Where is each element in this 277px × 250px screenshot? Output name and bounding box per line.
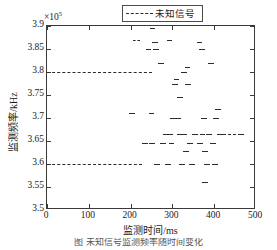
data-segment <box>228 134 236 135</box>
x-tick-mark <box>172 204 173 208</box>
data-segment <box>179 164 185 165</box>
data-segment <box>213 118 219 119</box>
y-tick-mark <box>47 95 51 96</box>
data-segment <box>153 49 159 50</box>
y-axis-exponent-label: ×105 <box>44 11 62 23</box>
x-tick-mark-top <box>89 26 90 30</box>
data-segment <box>238 134 245 135</box>
y-tick-label: 3.65 <box>27 135 44 145</box>
y-tick-label: 3.6 <box>32 158 44 168</box>
data-segment <box>177 97 183 98</box>
y-tick-label: 3.5 <box>32 204 44 214</box>
y-tick-mark-right <box>250 72 254 73</box>
y-tick-mark-right <box>250 26 254 27</box>
legend[interactable]: 未知信号 <box>122 5 203 22</box>
data-segment <box>136 208 142 209</box>
data-segment <box>152 42 158 43</box>
x-tick-mark <box>214 204 215 208</box>
data-segment <box>167 134 173 135</box>
y-tick-mark <box>47 118 51 119</box>
data-segment <box>154 164 160 165</box>
y-tick-mark-right <box>250 187 254 188</box>
data-segment <box>208 208 214 209</box>
data-segment <box>206 134 212 135</box>
data-segment <box>202 151 208 152</box>
data-segment <box>204 164 210 165</box>
exponent-power: 5 <box>59 10 62 17</box>
data-segment <box>165 164 171 165</box>
data-segment <box>182 134 188 135</box>
y-tick-label: 3.9 <box>32 20 44 30</box>
data-segment <box>185 84 191 85</box>
data-segment <box>149 143 155 144</box>
x-tick-mark <box>131 204 132 208</box>
data-segment <box>47 164 142 165</box>
data-segment <box>169 143 175 144</box>
data-segment <box>142 143 148 144</box>
data-segment <box>146 49 152 50</box>
data-segment <box>160 143 166 144</box>
y-tick-mark <box>47 187 51 188</box>
data-segment <box>167 40 173 41</box>
legend-line-swatch <box>126 13 153 14</box>
data-segment <box>196 208 202 209</box>
figure-container: ×105 3.53.553.63.653.73.753.83.853.9 010… <box>0 0 277 250</box>
data-segment <box>199 49 205 50</box>
data-segment <box>147 208 153 209</box>
y-tick-mark-right <box>250 95 254 96</box>
data-segment <box>240 208 246 209</box>
y-tick-label: 3.55 <box>27 181 44 191</box>
y-tick-mark <box>47 49 51 50</box>
data-segment <box>150 28 155 29</box>
data-segment <box>212 164 218 165</box>
data-segment <box>172 84 178 85</box>
x-tick-mark-top <box>214 26 215 30</box>
data-segment <box>185 67 191 68</box>
x-tick-label: 100 <box>81 211 95 221</box>
data-segment <box>192 134 198 135</box>
y-tick-mark <box>47 141 51 142</box>
y-tick-label: 3.75 <box>27 89 44 99</box>
y-tick-label: 3.85 <box>27 43 44 53</box>
exponent-prefix: ×10 <box>44 12 59 22</box>
x-tick-mark-top <box>47 26 48 30</box>
data-segment <box>210 143 216 144</box>
data-segment <box>174 79 180 80</box>
data-segment <box>149 113 155 114</box>
data-segment <box>133 40 140 41</box>
y-tick-mark-right <box>250 49 254 50</box>
data-segment <box>187 143 193 144</box>
data-segment <box>197 143 203 144</box>
x-tick-label: 300 <box>164 211 178 221</box>
data-segment <box>47 72 152 73</box>
data-segment <box>215 109 221 110</box>
y-tick-mark-right <box>250 118 254 119</box>
y-tick-mark-right <box>250 164 254 165</box>
x-axis-title: 监测时间/ms <box>46 226 255 236</box>
data-segment <box>129 113 135 114</box>
legend-label-unknown-signal: 未知信号 <box>155 9 195 19</box>
data-segment <box>225 208 231 209</box>
y-tick-label: 3.8 <box>32 66 44 76</box>
data-segment <box>200 134 206 135</box>
data-segment <box>197 42 203 43</box>
data-segment <box>181 72 187 73</box>
data-segment <box>201 118 207 119</box>
figure-caption: 图 未知信号监测频率随时间变化 <box>0 238 277 247</box>
x-tick-mark <box>47 204 48 208</box>
x-tick-mark-top <box>131 26 132 30</box>
data-segment <box>158 63 164 64</box>
data-segment <box>202 182 208 183</box>
data-segment <box>175 118 181 119</box>
y-tick-label: 3.7 <box>32 112 44 122</box>
x-tick-label: 500 <box>248 211 262 221</box>
x-tick-label: 200 <box>122 211 136 221</box>
data-segment <box>220 134 226 135</box>
x-tick-mark <box>89 204 90 208</box>
data-segment <box>183 151 189 152</box>
data-segment <box>208 63 214 64</box>
y-tick-mark-right <box>250 141 254 142</box>
y-axis-title: 监测频率/kHz <box>9 62 19 182</box>
data-segment <box>157 208 163 209</box>
data-segment <box>189 164 195 165</box>
